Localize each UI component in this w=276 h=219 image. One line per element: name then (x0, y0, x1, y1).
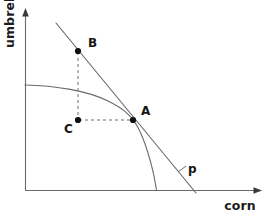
point-label-b: B (88, 36, 97, 50)
point-marker-b (75, 48, 81, 54)
ppf-curve (25, 85, 157, 190)
x-axis-label: corn (224, 198, 255, 213)
price-line-label-p: p (188, 162, 197, 176)
point-label-a: A (141, 104, 151, 118)
point-marker-a (130, 117, 136, 123)
point-label-c: C (64, 122, 73, 136)
y-axis-arrowhead-icon (22, 8, 29, 17)
point-marker-c (75, 117, 81, 123)
x-axis-arrowhead-icon (254, 187, 263, 194)
ppf-diagram-figure: corn umbrella B A C p (0, 0, 276, 219)
axes-group (22, 8, 262, 194)
y-axis-label: umbrella (2, 0, 17, 48)
price-line-leader-tick (178, 166, 186, 172)
plot-canvas: corn umbrella B A C p (0, 0, 276, 219)
